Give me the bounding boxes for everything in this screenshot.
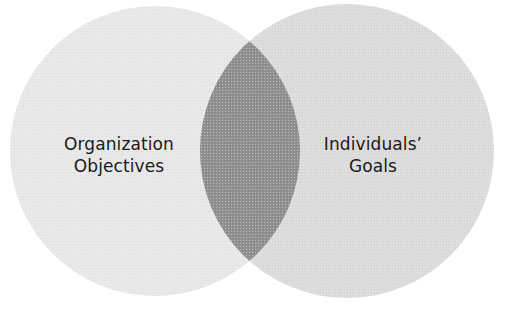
venn-diagram-figure: Organization Objectives Individuals’ Goa… [0,0,506,317]
set-label-right: Individuals’ Goals [288,133,458,177]
set-label-left: Organization Objectives [34,133,204,177]
set-label-right-line1: Individuals’ [288,133,458,155]
set-label-right-line2: Goals [288,155,458,177]
set-label-left-line2: Objectives [34,155,204,177]
set-label-left-line1: Organization [34,133,204,155]
